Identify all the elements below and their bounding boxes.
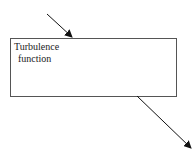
block-label-line2: function [18,53,51,65]
diagram-canvas: Turbulence function [0,0,193,164]
input-arrow [47,14,72,37]
output-arrow [137,96,191,148]
diagram-graphics [0,0,193,164]
block-label-line1: Turbulence [14,41,59,53]
